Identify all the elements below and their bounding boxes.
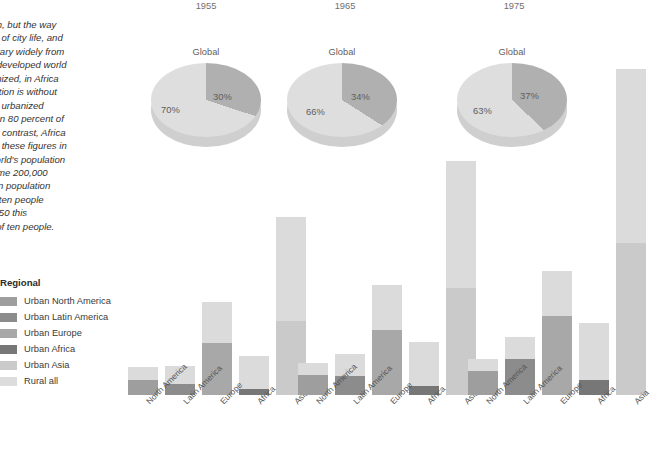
pie-top-1965 — [287, 63, 397, 137]
year-header-1955: 1955 — [176, 1, 236, 11]
legend-label-rural-all: Rural all — [24, 376, 58, 387]
bar-chart-1975: North AmericaLatin AmericaEuropeAfricaAs… — [468, 156, 654, 456]
bar-segment-rural — [579, 323, 609, 380]
bar-segment-rural — [372, 285, 402, 331]
year-header-1975: 1975 — [484, 1, 544, 11]
bar-segment-urban — [616, 243, 646, 395]
legend-swatch-urban-latin-america — [0, 313, 17, 322]
pie-value-rural-1975: 63% — [473, 105, 492, 116]
pie-graphic-1955: 30% 70% — [151, 63, 261, 149]
legend-swatch-urban-north-america — [0, 297, 17, 306]
legend-swatch-urban-asia — [0, 361, 17, 370]
page-title: e world — [0, 0, 152, 13]
bar-segment-rural — [542, 271, 572, 317]
year-header-1965: 1965 — [315, 1, 375, 11]
bar-column[interactable] — [579, 323, 609, 395]
legend-label-urban-asia: Urban Asia — [24, 360, 69, 371]
bar-segment-rural — [616, 69, 646, 243]
bar-segment-rural — [505, 337, 535, 360]
pie-top-1975 — [457, 63, 567, 137]
bar-chart-1955: North AmericaLatin AmericaEuropeAfricaAs… — [128, 156, 318, 456]
bar-segment-rural — [128, 367, 158, 380]
pie-value-urban-1975: 37% — [520, 90, 539, 101]
legend-label-urban-latin-america: Urban Latin America — [24, 312, 108, 323]
pie-value-rural-1955: 70% — [161, 104, 180, 115]
pie-graphic-1965: 34% 66% — [287, 63, 397, 149]
bar-segment-rural — [409, 342, 439, 386]
legend-swatch-urban-europe — [0, 329, 17, 338]
bar-columns-1965 — [298, 165, 483, 395]
pie-chart-1965: Global 34% 66% — [267, 47, 417, 149]
bar-segment-rural — [239, 356, 269, 389]
bar-columns-1975 — [468, 165, 653, 395]
pie-value-urban-1965: 34% — [351, 91, 370, 102]
pie-graphic-1975: 37% 63% — [457, 63, 567, 149]
pie-top-1955 — [151, 63, 261, 137]
pie-value-rural-1965: 66% — [306, 106, 325, 117]
bar-segment-rural — [298, 363, 328, 374]
bar-column[interactable] — [616, 69, 646, 395]
bar-columns-1955 — [128, 165, 313, 395]
legend-swatch-rural-all — [0, 377, 17, 386]
pie-caption-1965: Global — [267, 47, 417, 57]
legend-label-urban-africa: Urban Africa — [24, 344, 75, 355]
pie-value-urban-1955: 30% — [213, 91, 232, 102]
bar-segment-rural — [468, 359, 498, 370]
pie-chart-1955: Global 30% 70% — [131, 47, 281, 149]
pie-chart-1975: Global 37% 63% — [437, 47, 587, 149]
pie-caption-1975: Global — [437, 47, 587, 57]
bar-chart-1965: North AmericaLatin AmericaEuropeAfricaAs… — [298, 156, 488, 456]
pie-caption-1955: Global — [131, 47, 281, 57]
legend-label-urban-north-america: Urban North America — [24, 296, 111, 307]
bar-segment-rural — [202, 302, 232, 343]
legend-label-urban-europe: Urban Europe — [24, 328, 82, 339]
legend-swatch-urban-africa — [0, 345, 17, 354]
